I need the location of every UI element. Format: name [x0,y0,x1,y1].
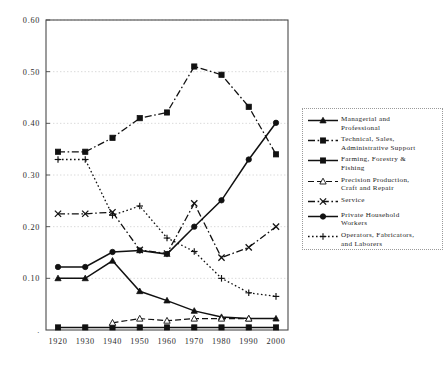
legend-item: Farming, Forestry & Fishing [307,154,438,172]
series-line [113,319,249,323]
legend-label: Technical, Sales, Administrative Support [341,134,416,152]
x-axis-tick-label: 2000 [266,337,285,346]
data-point-marker [137,116,142,121]
legend-key-plus-icon [307,230,339,243]
data-point-marker [320,214,325,219]
data-point-marker [164,110,169,115]
data-point-marker [55,264,60,269]
y-axis-tick-label: 0.20 [23,223,40,232]
y-axis-tick-label: 0.40 [23,119,40,128]
data-point-marker [273,120,278,125]
legend-label: Farming, Forestry & Fishing [341,154,406,172]
legend-key-circle-icon [307,210,339,223]
chart-series [55,258,279,321]
legend-key-square-icon [307,134,339,147]
data-point-marker [83,264,88,269]
chart-series [55,120,278,270]
legend-key-x-icon [307,195,339,208]
legend-item: Private Household Workers [307,210,438,228]
x-axis-tick-label: 1940 [103,337,122,346]
x-axis-tick-label: 1950 [130,337,149,346]
data-point-marker [246,104,251,109]
data-point-marker [245,290,252,297]
legend-item: Precision Production, Craft and Repair [307,175,438,193]
series-line [58,160,276,297]
data-point-marker [273,325,278,330]
data-point-marker [320,158,325,163]
legend-item: Service [307,195,438,208]
data-point-marker [273,293,280,300]
data-point-marker [246,157,251,162]
legend-label: Private Household Workers [341,210,400,228]
x-axis-tick-label: 1970 [185,337,204,346]
legend-key-triangle-open-icon [307,175,339,188]
legend-label: Service [341,195,365,205]
data-point-marker [83,325,88,330]
data-point-marker [219,72,224,77]
legend-key-triangle-icon [307,114,339,127]
chart-series [109,315,252,325]
legend-item: Technical, Sales, Administrative Support [307,134,438,152]
data-point-marker [320,138,325,143]
data-point-marker [164,325,169,330]
data-point-marker [109,212,116,219]
x-axis-tick-label: 1990 [239,337,258,346]
legend-key-square-icon [307,154,339,167]
y-axis-origin-mark: . [37,326,40,335]
chart-legend: Managerial and ProfessionalTechnical, Sa… [302,108,443,250]
x-axis-tick-label: 1980 [212,337,231,346]
data-point-marker [191,200,197,206]
data-point-marker [55,149,60,154]
y-axis-tick-label: 0.10 [23,274,40,283]
data-point-marker [137,248,142,253]
data-point-marker [246,244,252,250]
y-axis-tick-label: 0.50 [23,68,40,77]
data-point-marker [218,255,224,261]
legend-item: Operators, Fabricators, and Laborers [307,230,438,248]
data-point-marker [192,325,197,330]
data-point-marker [192,64,197,69]
x-axis-tick-label: 1920 [48,337,67,346]
data-point-marker [219,325,224,330]
series-line [58,123,276,267]
data-point-marker [320,233,327,240]
data-point-marker [82,156,89,163]
data-point-marker [137,325,142,330]
x-axis-tick-label: 1960 [157,337,176,346]
data-point-marker [110,249,115,254]
y-axis-tick-label: 0.60 [23,16,40,25]
x-axis-tick-label: 1930 [76,337,95,346]
legend-label: Managerial and Professional [341,114,390,132]
chart-series [55,325,278,330]
data-point-marker [110,135,115,140]
chart-area: 0.600.500.400.300.200.10.192019301940195… [0,0,300,365]
data-point-marker [192,224,197,229]
chart-screenshot: 0.600.500.400.300.200.10.192019301940195… [0,0,446,365]
data-point-marker [83,149,88,154]
data-point-marker [273,152,278,157]
line-chart-plot: 0.600.500.400.300.200.10.192019301940195… [0,0,300,365]
chart-series [55,64,278,157]
data-point-marker [55,325,60,330]
series-line [58,203,276,257]
legend-label: Operators, Fabricators, and Laborers [341,230,414,248]
data-point-marker [246,325,251,330]
data-point-marker [219,198,224,203]
data-point-marker [191,248,198,255]
legend-label: Precision Production, Craft and Repair [341,175,409,193]
data-point-marker [109,258,115,264]
y-axis-tick-label: 0.30 [23,171,40,180]
data-point-marker [218,275,225,282]
data-point-marker [55,156,62,163]
data-point-marker [164,251,169,256]
legend-item: Managerial and Professional [307,114,438,132]
